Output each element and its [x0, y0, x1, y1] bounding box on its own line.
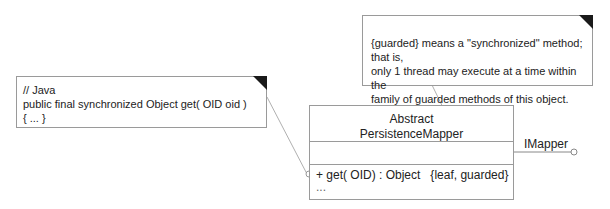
guarded-note-line: {guarded} means a "synchronized" method;… — [371, 36, 592, 64]
java-note-anchor-line — [267, 97, 307, 174]
interface-label: IMapper — [524, 137, 568, 151]
operation-get: + get( OID) : Object {leaf, guarded} — [316, 168, 508, 182]
operation-ellipsis: ... — [316, 180, 326, 194]
attributes-divider — [310, 141, 513, 142]
operations-divider — [310, 164, 513, 165]
interface-lollipop-circle — [571, 149, 577, 155]
class-name-line1: Abstract — [310, 112, 513, 127]
java-note-line: // Java — [23, 83, 247, 97]
class-box-abstract-persistence-mapper[interactable]: Abstract PersistenceMapper + get( OID) :… — [309, 105, 514, 200]
note-fold-corner-icon — [253, 76, 267, 90]
guarded-note-line: only 1 thread may execute at a time with… — [371, 64, 592, 92]
class-name-line2: PersistenceMapper — [310, 127, 513, 142]
note-fold-corner-icon — [579, 15, 593, 29]
class-name: Abstract PersistenceMapper — [310, 112, 513, 142]
java-note-line: { ... } — [23, 111, 247, 125]
guarded-note-line: family of guarded methods of this object… — [371, 92, 592, 106]
java-note-line: public final synchronized Object get( OI… — [23, 97, 247, 111]
guarded-note: {guarded} means a "synchronized" method;… — [362, 15, 593, 86]
java-note: // Java public final synchronized Object… — [16, 76, 267, 128]
